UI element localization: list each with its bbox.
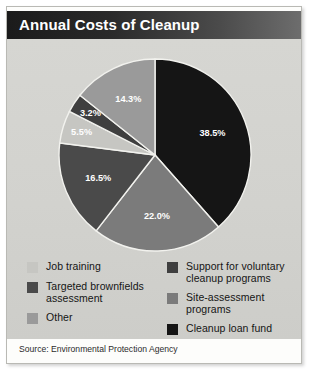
pie-slice-label: 3.2% [80, 108, 101, 118]
chart-title-bar: Annual Costs of Cleanup [7, 11, 302, 39]
legend-item-site-assessment-programs[interactable]: Site-assessment programs [167, 292, 299, 315]
pie-slice-label: 5.5% [71, 127, 92, 137]
legend-swatch-cleanup-loan-fund [167, 324, 178, 335]
legend-swatch-job-training [27, 262, 38, 273]
legend-column-right: Support for voluntary cleanup programs S… [167, 261, 299, 343]
legend-swatch-targeted-brownfields-assessment [27, 282, 38, 293]
source-note: Source: Environmental Protection Agency [19, 344, 178, 354]
legend-item-other[interactable]: Other [27, 312, 167, 324]
pie-chart: 38.5%22.0%16.5%5.5%3.2%14.3% [56, 56, 254, 254]
chart-plot-area: 38.5%22.0%16.5%5.5%3.2%14.3% Job trainin… [7, 39, 302, 339]
legend-label-site-assessment-programs: Site-assessment programs [186, 292, 299, 315]
chart-legend: Job training Targeted brownfields assess… [7, 261, 302, 339]
chart-source-bar: Source: Environmental Protection Agency [7, 339, 302, 364]
legend-swatch-support-for-voluntary-cleanup-programs [167, 262, 178, 273]
pie-slice-label: 14.3% [115, 94, 141, 104]
page-title: Annual Costs of Cleanup [19, 16, 200, 33]
pie-slice-group [59, 59, 251, 251]
legend-column-left: Job training Targeted brownfields assess… [27, 261, 167, 332]
chart-figure: Annual Costs of Cleanup 38.5%22.0%16.5%5… [6, 6, 302, 364]
pie-slice-label: 22.0% [144, 211, 170, 221]
legend-item-job-training[interactable]: Job training [27, 261, 167, 273]
legend-swatch-other [27, 313, 38, 324]
legend-swatch-site-assessment-programs [167, 293, 178, 304]
legend-label-cleanup-loan-fund: Cleanup loan fund [186, 323, 272, 335]
pie-slice-label: 16.5% [85, 173, 111, 183]
legend-item-cleanup-loan-fund[interactable]: Cleanup loan fund [167, 323, 299, 335]
legend-label-support-for-voluntary-cleanup-programs: Support for voluntary cleanup programs [186, 261, 299, 284]
legend-item-targeted-brownfields-assessment[interactable]: Targeted brownfields assessment [27, 281, 167, 304]
legend-item-support-for-voluntary-cleanup-programs[interactable]: Support for voluntary cleanup programs [167, 261, 299, 284]
legend-label-other: Other [46, 312, 73, 324]
legend-label-targeted-brownfields-assessment: Targeted brownfields assessment [46, 281, 167, 304]
pie-chart-svg: 38.5%22.0%16.5%5.5%3.2%14.3% [56, 56, 254, 254]
pie-slice-label: 38.5% [199, 128, 225, 138]
legend-label-job-training: Job training [46, 261, 101, 273]
